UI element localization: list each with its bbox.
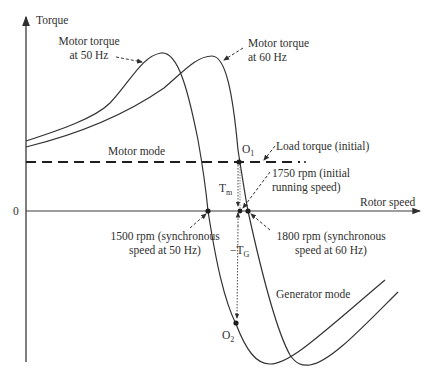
rpm-1500-label: 1500 rpm (synchronous speed at 50 Hz) [100,229,230,257]
leader-1800 [251,214,270,230]
x-axis-label: Rotor speed [360,195,415,209]
rpm-1750-label: 1750 rpm (initial running speed) [272,166,350,194]
generator-mode-label: Generator mode [276,287,350,301]
y-axis-label: Torque [36,13,68,27]
o1-label: O1 [242,142,254,156]
tg-label: −TG [230,243,249,257]
zero-tick-label: 0 [13,204,19,218]
tm-label: Tm [219,181,232,195]
tg-arrow-down [237,226,238,318]
motor-60hz-label: Motor torque at 60 Hz [248,36,309,64]
point-1750rpm [238,209,243,214]
leader-1500 [190,214,206,228]
point-o1 [236,159,241,164]
torque-speed-diagram: Torque Rotor speed 0 Motor torque at 50 … [0,0,434,384]
load-torque-label: Load torque (initial) [276,139,369,153]
rpm-1800-label: 1800 rpm (synchronous speed at 60 Hz) [266,229,396,257]
motor-torque-50hz-curve [26,53,385,364]
motor-mode-label: Motor mode [108,144,165,158]
leader-60hz [224,48,243,60]
point-1500rpm [205,208,210,213]
leader-load [264,146,275,160]
motor-50hz-label: Motor torque at 50 Hz [58,34,120,62]
point-o2 [233,320,238,325]
o2-label: O2 [222,328,234,342]
point-1800rpm [245,208,250,213]
